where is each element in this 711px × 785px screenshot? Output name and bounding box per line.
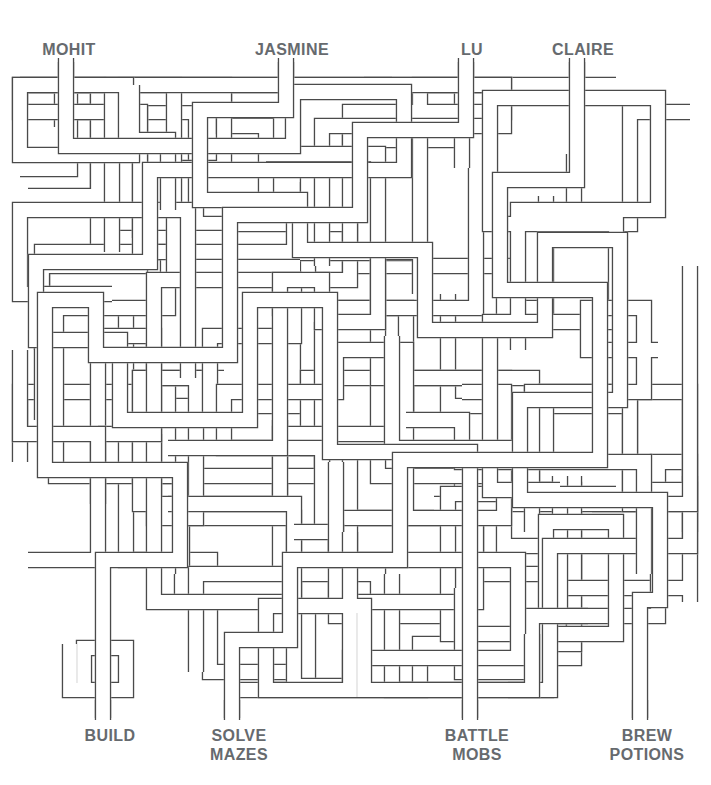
maze-puzzle: MOHITJASMINELUCLAIRE BUILDSOLVE MAZESBAT…	[0, 0, 711, 785]
pipe-network	[20, 58, 690, 720]
label-brew-potions: BREW POTIONS	[610, 726, 685, 764]
label-solve-mazes: SOLVE MAZES	[210, 726, 268, 764]
label-jasmine: JASMINE	[255, 40, 329, 59]
label-build: BUILD	[85, 726, 136, 745]
label-claire: CLAIRE	[552, 40, 614, 59]
label-battle-mobs: BATTLE MOBS	[445, 726, 509, 764]
label-lu: LU	[461, 40, 483, 59]
maze-canvas	[0, 0, 711, 785]
label-mohit: MOHIT	[42, 40, 96, 59]
